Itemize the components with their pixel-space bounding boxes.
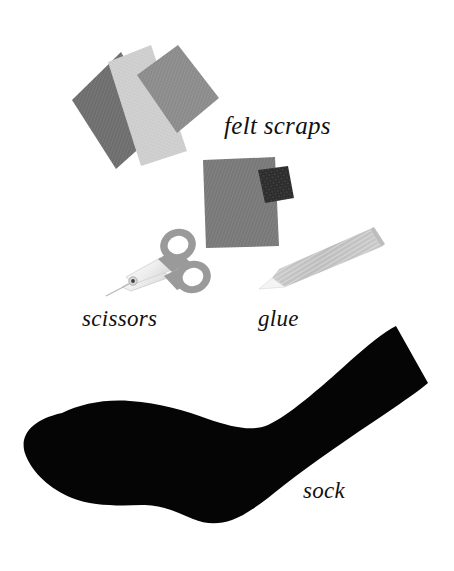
sock-silhouette	[24, 326, 428, 523]
label-scissors: scissors	[82, 306, 157, 332]
sock-graphic	[24, 326, 428, 523]
illustration-canvas	[0, 0, 454, 571]
label-glue: glue	[258, 306, 299, 332]
felt-scraps-group	[72, 45, 294, 248]
craft-materials-illustration: felt scraps scissors glue sock	[0, 0, 454, 571]
scissors-tip	[106, 284, 129, 296]
label-sock: sock	[303, 478, 345, 504]
label-felt-scraps: felt scraps	[224, 112, 331, 140]
scissors-graphic	[106, 224, 215, 298]
